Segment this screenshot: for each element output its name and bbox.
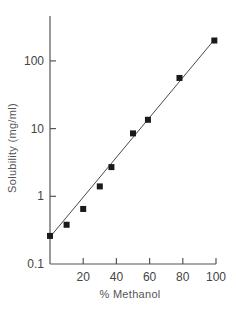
data-point-square	[145, 117, 151, 123]
y-tick-label: 0.1	[27, 257, 44, 271]
x-tick-label: 80	[176, 270, 190, 284]
y-tick-label: 1	[37, 189, 44, 203]
x-tick-label: 40	[110, 270, 124, 284]
data-point-square	[211, 38, 217, 44]
axes	[50, 16, 216, 264]
data-point-square	[176, 75, 182, 81]
data-point-square	[97, 183, 103, 189]
x-tick-label: 100	[206, 270, 226, 284]
y-axis-title: Solubility (mg/ml)	[6, 103, 18, 193]
data-point-square	[64, 222, 70, 228]
x-tick-label: 20	[77, 270, 91, 284]
x-axis-title: % Methanol	[99, 288, 160, 300]
tick-labels: 0.111010020406080100	[24, 54, 226, 284]
y-tick-label: 10	[31, 122, 45, 136]
data-point-square	[108, 164, 114, 170]
x-tick-label: 60	[143, 270, 157, 284]
data-point-square	[47, 233, 53, 239]
solubility-chart: 0.111010020406080100 % Methanol Solubili…	[0, 0, 236, 312]
y-tick-label: 100	[24, 54, 44, 68]
data-point-square	[130, 130, 136, 136]
regression-line	[50, 38, 216, 237]
fit-line	[50, 38, 216, 237]
data-point-square	[80, 206, 86, 212]
